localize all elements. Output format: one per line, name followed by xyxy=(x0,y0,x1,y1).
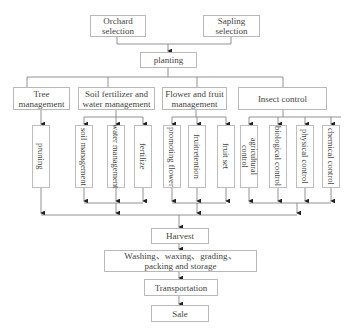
tree-management-box: Tree management xyxy=(13,87,70,110)
biological-control-box: biological control xyxy=(269,125,287,188)
orchard-selection-line1: Orchard xyxy=(103,16,132,26)
soil-water-line2: water management xyxy=(82,99,150,109)
agricultural-control-box: agriculturalcontrol xyxy=(240,125,258,188)
fruit-set-box: fruit set xyxy=(217,125,235,188)
insect-control-label: Insect control xyxy=(258,94,307,104)
fruitretention-label: fruitretention xyxy=(192,134,202,179)
tree-management-line1: Tree xyxy=(33,89,49,99)
soil-water-line1: Soil fertilizer and xyxy=(85,89,148,99)
pruning-box: pruning xyxy=(32,125,50,188)
flower-fruit-management-box: Flower and fruit management xyxy=(162,87,227,110)
planting-label: planting xyxy=(154,55,184,65)
transportation-label: Transportation xyxy=(155,283,208,293)
chemical-control-label: chemical control xyxy=(326,128,336,185)
flower-fruit-line2: management xyxy=(172,99,218,109)
sapling-selection-box: Sapling selection xyxy=(203,15,260,37)
agricultural-line1: agricultural xyxy=(249,138,258,175)
washing-line2: packing and storage xyxy=(145,261,217,271)
soil-management-label: soil management xyxy=(79,128,89,186)
planting-box: planting xyxy=(140,52,197,68)
promoting-flower-label: promoting flower xyxy=(167,127,177,187)
soil-water-management-box: Soil fertilizer and water management xyxy=(78,87,155,110)
biological-control-label: biological control xyxy=(273,126,283,186)
agricultural-control-label: agriculturalcontrol xyxy=(240,138,258,175)
water-management-box: water management xyxy=(107,125,125,188)
sapling-selection-line2: selection xyxy=(216,26,248,36)
orchard-selection-line2: selection xyxy=(102,26,134,36)
sale-box: Sale xyxy=(151,305,209,322)
physical-control-label: physical control xyxy=(300,129,310,184)
fruitretention-box: fruitretention xyxy=(188,125,206,188)
promoting-flower-box: promoting flower xyxy=(163,125,181,188)
water-management-label: water management xyxy=(111,124,121,188)
washing-packing-box: Washing、waxing、grading、 packing and stor… xyxy=(104,250,257,272)
flower-fruit-line1: Flower and fruit xyxy=(165,89,224,99)
orchard-selection-box: Orchard selection xyxy=(90,15,146,37)
soil-management-box: soil management xyxy=(75,125,93,188)
harvest-box: Harvest xyxy=(151,228,209,244)
chemical-control-box: chemical control xyxy=(322,125,340,188)
physical-control-box: physical control xyxy=(296,125,314,188)
transportation-box: Transportation xyxy=(144,279,218,296)
tree-management-line2: management xyxy=(19,99,65,109)
harvest-label: Harvest xyxy=(166,231,194,241)
fertilize-box: fertilize xyxy=(134,125,152,188)
sapling-selection-line1: Sapling xyxy=(218,16,246,26)
fertilize-label: fertilize xyxy=(138,143,148,169)
washing-line1: Washing、waxing、grading、 xyxy=(124,251,236,261)
pruning-label: pruning xyxy=(36,143,46,169)
sale-label: Sale xyxy=(172,309,188,319)
insect-control-box: Insect control xyxy=(238,87,327,110)
agricultural-line2: control xyxy=(240,145,249,168)
fruit-set-label: fruit set xyxy=(221,143,231,169)
